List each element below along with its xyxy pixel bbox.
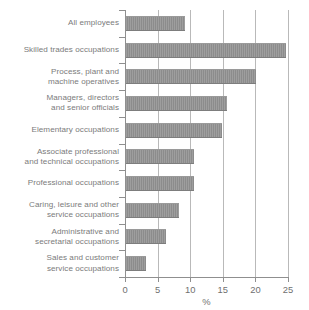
x-axis-tick-label: 15 [211,284,235,295]
y-axis-tick [119,170,125,171]
bar-row: Managers, directorsand senior officials [0,90,309,117]
category-label-line: service occupations [47,210,119,220]
bar-track [126,250,146,277]
y-axis-tick [119,224,125,225]
category-label: Skilled trades occupations [0,37,119,64]
y-axis-tick [119,144,125,145]
bar-track [126,117,222,144]
bar-track [126,37,286,64]
x-axis-tick-20 [255,277,256,282]
category-label-line: Skilled trades occupations [24,45,119,55]
bar [126,43,286,58]
bar [126,176,194,191]
bar-row: Sales and customerservice occupations [0,250,309,277]
x-axis-title: % [125,296,288,307]
category-label: Caring, leisure and otherservice occupat… [0,197,119,224]
bar-track [126,90,227,117]
bar [126,16,185,31]
category-label-line: and technical occupations [25,157,119,167]
bar [126,123,222,138]
category-label: Associate professionaland technical occu… [0,144,119,171]
x-axis-line [125,277,289,278]
category-label: Administrative andsecretarial occupation… [0,224,119,251]
bar-chart: All employeesSkilled trades occupationsP… [0,0,309,310]
y-axis-tick [119,250,125,251]
bar-row: Caring, leisure and otherservice occupat… [0,197,309,224]
y-axis-tick [119,90,125,91]
x-axis-tick-label: 5 [146,284,170,295]
bar-track [126,170,194,197]
category-label: Process, plant andmachine operatives [0,63,119,90]
bar-track [126,197,179,224]
bar [126,96,227,111]
bar-track [126,224,166,251]
bar [126,203,179,218]
bar-track [126,63,256,90]
bar-row: Elementary occupations [0,117,309,144]
category-label-line: Professional occupations [28,178,119,188]
y-axis-tick [119,277,125,278]
category-label-line: Administrative and [52,227,119,237]
bar-row: All employees [0,10,309,37]
y-axis-tick [119,63,125,64]
x-axis-tick-label: 20 [243,284,267,295]
x-axis-tick-10 [190,277,191,282]
x-axis-tick-label: 0 [113,284,137,295]
bar-row: Process, plant andmachine operatives [0,63,309,90]
category-label: Elementary occupations [0,117,119,144]
bar [126,256,146,271]
bar-track [126,144,194,171]
category-label: Professional occupations [0,170,119,197]
category-label-line: All employees [68,18,119,28]
x-axis-tick-label: 25 [276,284,300,295]
category-label-line: Managers, directors [47,93,119,103]
x-axis-tick-0 [125,277,126,282]
bar-row: Skilled trades occupations [0,37,309,64]
category-label-line: service occupations [47,264,119,274]
bar [126,69,256,84]
category-label-line: Caring, leisure and other [29,200,119,210]
x-axis-tick-label: 10 [178,284,202,295]
x-axis-tick-5 [158,277,159,282]
category-label: Sales and customerservice occupations [0,250,119,277]
y-axis-tick [119,117,125,118]
y-axis-tick [119,10,125,11]
category-label-line: Elementary occupations [32,125,119,135]
category-label-line: Associate professional [37,147,119,157]
category-label-line: and senior officials [51,103,119,113]
category-label-line: secretarial occupations [35,237,119,247]
category-label: Managers, directorsand senior officials [0,90,119,117]
bar-row: Administrative andsecretarial occupation… [0,224,309,251]
y-axis-tick [119,37,125,38]
category-label-line: machine operatives [48,77,119,87]
x-axis-tick-25 [288,277,289,282]
bar-row: Associate professionaland technical occu… [0,144,309,171]
category-label-line: Process, plant and [51,67,119,77]
x-axis-tick-15 [223,277,224,282]
bar [126,229,166,244]
bar-track [126,10,185,37]
y-axis-tick [119,197,125,198]
category-label-line: Sales and customer [47,253,119,263]
bar-row: Professional occupations [0,170,309,197]
category-label: All employees [0,10,119,37]
bar [126,149,194,164]
